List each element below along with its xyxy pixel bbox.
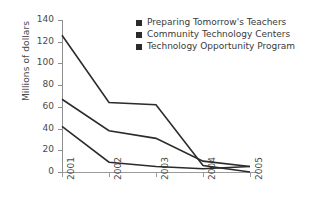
legend-item-label: Technology Opportunity Program	[147, 42, 295, 51]
series-line-2	[62, 126, 250, 168]
y-tick-label: 60	[43, 101, 54, 111]
legend-swatch-icon	[136, 20, 142, 26]
x-tick-label: 2005	[254, 157, 264, 180]
chart-legend: Preparing Tomorrow's TeachersCommunity T…	[136, 18, 295, 51]
x-tick	[250, 172, 251, 177]
y-tick-label: 140	[37, 14, 54, 24]
y-tick-label: 120	[37, 36, 54, 46]
legend-swatch-icon	[136, 44, 142, 50]
y-tick-label: 0	[48, 166, 54, 176]
series-line-0	[62, 35, 250, 172]
series-line-1	[62, 99, 250, 166]
y-tick-label: 80	[43, 79, 54, 89]
line-chart: Millions of dollars 020406080100120140 2…	[0, 0, 310, 200]
legend-item[interactable]: Preparing Tomorrow's Teachers	[136, 18, 295, 27]
y-tick-label: 40	[43, 123, 54, 133]
legend-swatch-icon	[136, 32, 142, 38]
legend-item-label: Preparing Tomorrow's Teachers	[147, 18, 286, 27]
y-axis-title: Millions of dollars	[21, 0, 31, 131]
legend-item-label: Community Technology Centers	[147, 30, 290, 39]
y-tick-label: 100	[37, 57, 54, 67]
legend-item[interactable]: Community Technology Centers	[136, 30, 295, 39]
y-tick-label: 20	[43, 144, 54, 154]
legend-item[interactable]: Technology Opportunity Program	[136, 42, 295, 51]
